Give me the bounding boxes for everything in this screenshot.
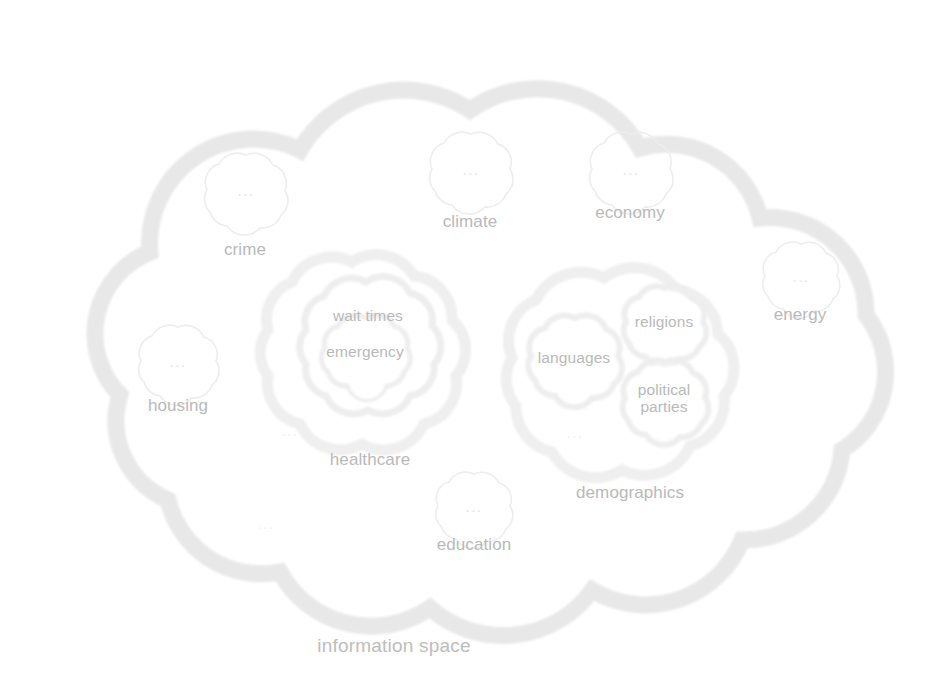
label-energy: energy	[774, 305, 827, 324]
ellipsis-outer-left: ...	[257, 515, 274, 532]
label-religions: religions	[635, 313, 694, 330]
ellipsis-healthcare: ...	[281, 422, 298, 439]
label-healthcare: healthcare	[330, 450, 410, 469]
ellipsis-demographics: ...	[566, 424, 583, 441]
ellipsis-economy: ...	[622, 161, 639, 178]
diagram-caption: information space	[317, 635, 470, 657]
cloud-diagram-svg	[0, 0, 952, 689]
ellipsis-climate: ...	[462, 161, 479, 178]
label-wait-times: wait times	[333, 307, 403, 324]
label-education: education	[437, 535, 512, 554]
label-economy: economy	[595, 203, 665, 222]
label-crime: crime	[224, 240, 266, 259]
diagram-canvas: ... ... ... ... ... ... ... ... ... crim…	[0, 0, 952, 689]
label-languages: languages	[538, 349, 610, 366]
label-housing: housing	[148, 396, 208, 415]
ellipsis-energy: ...	[792, 268, 809, 285]
ellipsis-housing: ...	[169, 353, 186, 370]
ellipsis-education: ...	[465, 498, 482, 515]
label-emergency: emergency	[326, 343, 404, 360]
ellipsis-crime: ...	[237, 182, 254, 199]
label-political-parties: political parties	[638, 381, 691, 416]
label-climate: climate	[443, 212, 498, 231]
label-demographics: demographics	[576, 483, 684, 502]
